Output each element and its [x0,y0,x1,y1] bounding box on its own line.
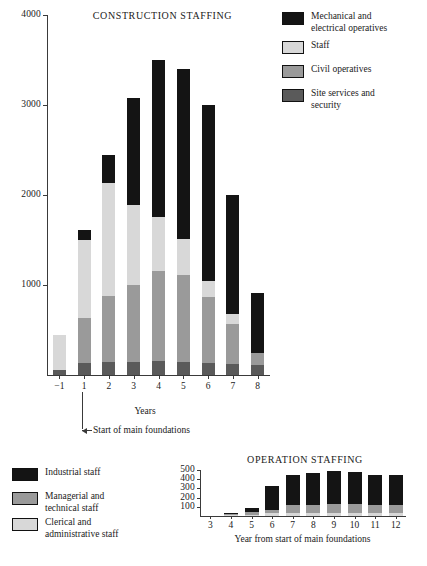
chart2-x-axis-title: Year from start of main foundations [195,534,410,544]
bar-segment [265,510,279,514]
bar-segment [202,105,215,281]
bar [226,15,239,375]
bar-segment [327,471,341,504]
chart1-x-tick [109,375,110,379]
legend-swatch [282,65,304,78]
bar-segment [127,205,140,285]
bar-segment [152,217,165,271]
bar-segment [202,363,215,375]
bar-segment [348,472,362,504]
bar-segment [202,281,215,297]
bar-segment [368,505,382,513]
chart2-x-tick [375,516,376,519]
legend-swatch [12,518,38,531]
chart2-x-tick [252,516,253,519]
bar-segment [251,353,264,366]
bar [53,15,66,375]
chart2-x-tick [210,516,211,519]
chart1-x-tick [208,375,209,379]
chart1-y-tick-label: 1000 [5,280,41,290]
bar [286,470,300,516]
bar-segment [286,475,300,505]
legend-swatch [12,492,38,505]
bar-segment [368,475,382,505]
chart1-x-tick-label: −1 [47,382,71,392]
legend-label: administrative staff [45,529,165,541]
bar-segment [78,363,91,375]
chart2-y-tick [197,507,201,508]
chart1-x-tick [59,375,60,379]
bar-segment [177,275,190,361]
bar-segment [102,362,115,376]
chart1-x-axis-title: Years [100,406,190,416]
chart1-x-tick-label: 1 [72,382,96,392]
bar [224,470,238,516]
bar [251,15,264,375]
chart1-x-tick-label: 8 [246,382,270,392]
bar-segment [78,318,91,363]
bar [245,470,259,516]
chart2-y-tick [197,498,201,499]
legend-swatch [12,468,38,481]
operation-staffing-chart: OPERATION STAFFING 500400300200100 34567… [0,450,427,566]
bar-segment [53,335,66,369]
figure-root: CONSTRUCTION STAFFING 4000300020001000 −… [0,0,427,566]
chart1-x-tick-label: 3 [122,382,146,392]
legend-label: Site services and [311,88,423,100]
chart1-x-tick-label: 6 [196,382,220,392]
chart1-x-tick-label: 5 [171,382,195,392]
bar [348,470,362,516]
bar [127,15,140,375]
chart1-x-tick [134,375,135,379]
bar [368,470,382,516]
bar-segment [226,314,239,324]
chart2-y-tick [197,479,201,480]
bar-segment [389,475,403,505]
bar-segment [226,324,239,365]
chart2-y-tick [197,470,201,471]
chart1-y-tick-label: 2000 [5,190,41,200]
annotation-vertical-line [82,392,83,429]
bar-segment [245,512,259,514]
legend-label: technical staff [45,503,165,515]
chart1-y-tick [43,285,48,286]
bar-segment [127,98,140,205]
chart2-y-tick [197,488,201,489]
chart2-x-tick [334,516,335,519]
bar-segment [286,505,300,513]
legend-label: Industrial staff [45,467,165,479]
bar-segment [265,486,279,509]
bar-segment [177,69,190,239]
legend-label: Managerial and [45,491,165,503]
bar [102,15,115,375]
chart2-x-tick [396,516,397,519]
bar-segment [389,505,403,513]
bar-segment [78,230,91,240]
chart1-x-tick [233,375,234,379]
chart1-y-tick-label: 3000 [5,100,41,110]
bar [265,470,279,516]
bar-segment [152,60,165,217]
chart2-x-tick [231,516,232,519]
chart1-x-tick-label: 4 [147,382,171,392]
bar [327,470,341,516]
bar-segment [177,239,190,275]
bar [202,15,215,375]
bar-segment [306,505,320,513]
bar-segment [102,296,115,362]
chart1-x-tick [183,375,184,379]
bar [78,15,91,375]
chart1-y-tick [43,105,48,106]
bar-segment [245,508,259,512]
bar-segment [177,362,190,376]
chart1-x-tick [84,375,85,379]
legend-label: Clerical and [45,517,165,529]
bar [152,15,165,375]
bar-segment [102,183,115,296]
legend-swatch [282,41,304,54]
chart2-y-tick-label: 100 [172,502,195,512]
bar-segment [348,504,362,513]
chart2-y-axis [200,470,201,517]
legend-label: security [311,100,423,112]
bar-segment [102,155,115,184]
